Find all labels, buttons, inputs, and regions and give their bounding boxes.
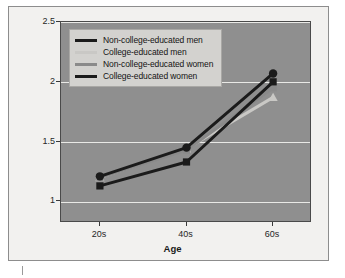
x-tick-label: 40s [166, 229, 206, 239]
x-tick-label: 60s [252, 229, 292, 239]
x-tick-label: 20s [79, 229, 119, 239]
y-tick-label: 2.5 [15, 16, 55, 26]
data-point-marker [182, 143, 190, 151]
legend-item: Non-college-educated women [75, 58, 213, 70]
caption-rule [22, 266, 23, 275]
data-point-marker [96, 182, 103, 189]
y-tick-label: 2 [15, 76, 55, 86]
legend-item: College-educated women [75, 70, 213, 82]
legend-label: Non-college-educated men [103, 35, 203, 45]
caption-strip [8, 266, 329, 276]
legend-swatch [75, 75, 97, 78]
x-tick-mark [99, 222, 100, 226]
data-point-marker [269, 69, 277, 77]
data-point-marker [183, 158, 190, 165]
legend-label: Non-college-educated women [103, 59, 213, 69]
legend-swatch [75, 63, 97, 66]
legend-swatch [75, 51, 97, 54]
legend-label: College-educated women [103, 71, 197, 81]
y-tick-label: 1 [15, 195, 55, 205]
figure-container: Mean Concern-About-Aging Rating 11.522.5… [0, 0, 345, 278]
x-tick-mark [186, 222, 187, 226]
legend: Non-college-educated menCollege-educated… [69, 29, 222, 87]
data-point-marker [268, 93, 277, 101]
legend-item: College-educated men [75, 46, 213, 58]
series-3 [96, 84, 276, 181]
data-point-marker [96, 172, 104, 180]
data-point-marker [269, 78, 276, 85]
x-axis-label: Age [0, 243, 345, 254]
legend-label: College-educated men [103, 47, 187, 57]
legend-item: Non-college-educated men [75, 34, 213, 46]
y-tick-label: 1.5 [15, 136, 55, 146]
plot-area: Non-college-educated menCollege-educated… [60, 21, 311, 222]
x-tick-mark [272, 222, 273, 226]
legend-swatch [75, 39, 97, 42]
